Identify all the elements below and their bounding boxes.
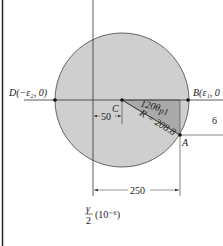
dim-right-partial-label: 6 <box>212 115 217 126</box>
mohr-circle-diagram: 50 250 6 D(−ε₂, 0) B(ε₁, 0 C A 120θp1 R … <box>0 0 223 246</box>
axis-label-numerator: γ <box>86 203 91 214</box>
dim-250-label: 250 <box>130 185 145 196</box>
dimension-250: 250 <box>94 185 179 196</box>
point-c-label: C <box>112 103 119 114</box>
point-b <box>186 98 190 102</box>
point-d <box>53 98 57 102</box>
axis-label-unit: (10⁻⁶) <box>95 209 120 221</box>
point-b-label: B(ε₁, 0 <box>193 87 220 99</box>
point-c <box>120 98 124 102</box>
vertical-axis-label: γ 2 (10⁻⁶) <box>85 203 120 226</box>
axis-label-denominator: 2 <box>86 215 91 226</box>
point-d-label: D(−ε₂, 0) <box>8 87 48 99</box>
point-a-label: A <box>181 137 189 148</box>
dim-50-label: 50 <box>101 111 111 122</box>
